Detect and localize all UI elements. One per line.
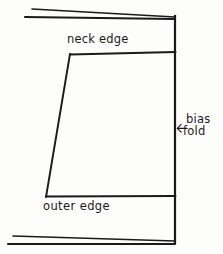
neck-edge-line: [70, 52, 176, 55]
outer-edge-line: [46, 196, 176, 197]
bottom-fabric-edge-upper-line: [13, 236, 175, 241]
slanted-side-line: [46, 54, 70, 197]
bias-fold-label: bias fold: [186, 113, 210, 138]
bias-fold-diagram: neck edge outer edge bias fold: [0, 0, 223, 254]
neck-edge-label: neck edge: [67, 33, 129, 45]
top-fabric-edge-lower-line: [25, 17, 175, 19]
left-arrow-icon: [176, 122, 188, 135]
outer-edge-label: outer edge: [43, 200, 110, 212]
top-fabric-edge-upper-line: [32, 9, 175, 17]
